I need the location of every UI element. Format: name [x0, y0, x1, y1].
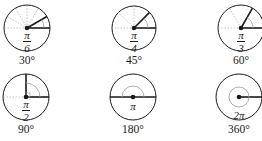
denominator: 2	[18, 112, 34, 122]
degree-label-180: 180°	[113, 123, 153, 135]
degree-label-45: 45°	[114, 54, 154, 66]
radian-label-pi: π	[123, 101, 143, 111]
denominator: 6	[19, 43, 35, 53]
angle-diagram	[0, 0, 262, 141]
radian-label-pi-over-3: π 3	[233, 30, 249, 53]
numerator: π	[19, 30, 35, 40]
degree-label-30: 30°	[7, 54, 47, 66]
denominator: 4	[126, 43, 142, 53]
numerator: π	[18, 99, 34, 109]
radian-label-2pi: 2π	[227, 110, 251, 120]
radian-label-pi-over-6: π 6	[19, 30, 35, 53]
degree-label-90: 90°	[6, 123, 46, 135]
circle-180-degrees	[110, 74, 156, 120]
degree-label-360: 360°	[219, 123, 259, 135]
numerator: π	[233, 30, 249, 40]
denominator: 3	[233, 43, 249, 53]
radian-label-pi-over-4: π 4	[126, 30, 142, 53]
radian-label-pi-over-2: π 2	[18, 99, 34, 122]
numerator: π	[126, 30, 142, 40]
degree-label-60: 60°	[221, 54, 261, 66]
